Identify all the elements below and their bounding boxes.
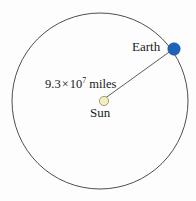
orbit-diagram: Earth Sun 9.3×107 miles <box>0 0 196 201</box>
sun-to-earth-radius-line <box>104 50 172 99</box>
distance-mantissa: 9.3 <box>45 77 61 91</box>
distance-exponent: 7 <box>82 76 86 85</box>
diagram-canvas <box>0 0 196 201</box>
sun-label: Sun <box>90 106 110 119</box>
earth-label: Earth <box>132 40 160 53</box>
multiplication-sign: × <box>61 77 70 91</box>
earth-marker <box>168 43 180 55</box>
distance-unit: miles <box>89 77 116 91</box>
distance-label: 9.3×107 miles <box>45 78 116 91</box>
distance-base: 10 <box>70 77 83 91</box>
